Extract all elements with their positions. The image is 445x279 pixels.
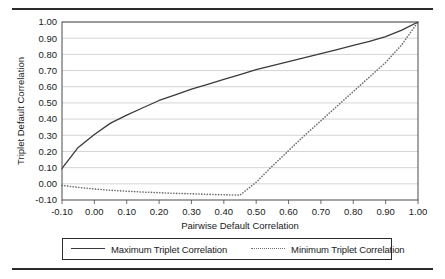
legend-label-minimum: Minimum Triplet Correlation [291, 244, 404, 255]
figure-bottom-rule [12, 268, 433, 270]
legend-swatch-dotted-icon [251, 244, 285, 254]
y-tick-label: 1.00 [39, 16, 58, 27]
legend-entry-minimum: Minimum Triplet Correlation [251, 239, 404, 259]
x-tick-label: 0.00 [85, 206, 104, 217]
figure-container: -0.100.000.100.200.300.400.500.600.700.8… [0, 0, 445, 279]
x-tick-label: 0.30 [182, 206, 201, 217]
y-axis-title: Triplet Default Correlation [15, 57, 26, 165]
x-tick-label: 1.00 [409, 206, 428, 217]
x-tick-label: 0.50 [247, 206, 266, 217]
y-tick-label: 0.40 [39, 113, 58, 124]
legend-label-maximum: Maximum Triplet Correlation [111, 244, 227, 255]
x-tick-label: 0.80 [344, 206, 363, 217]
figure-top-rule [12, 8, 433, 10]
chart-legend: Maximum Triplet Correlation Minimum Trip… [0, 238, 445, 262]
legend-box: Maximum Triplet Correlation Minimum Trip… [62, 238, 392, 260]
x-tick-label: 0.10 [117, 206, 136, 217]
y-tick-label: -0.10 [35, 194, 57, 205]
x-tick-label: 0.90 [376, 206, 395, 217]
x-tick-label: 0.60 [279, 206, 298, 217]
chart-plot-area: -0.100.000.100.200.300.400.500.600.700.8… [0, 14, 445, 236]
y-tick-label: 0.10 [39, 162, 58, 173]
y-tick-label: 0.20 [39, 146, 58, 157]
x-tick-label: 0.40 [215, 206, 234, 217]
y-tick-label: 0.30 [39, 130, 58, 141]
x-tick-label: 0.20 [150, 206, 169, 217]
line-chart: -0.100.000.100.200.300.400.500.600.700.8… [0, 14, 445, 236]
y-tick-label: 0.70 [39, 65, 58, 76]
y-tick-label: 0.00 [39, 178, 58, 189]
legend-entry-maximum: Maximum Triplet Correlation [71, 239, 227, 259]
x-tick-label: -0.10 [51, 206, 73, 217]
y-tick-label: 0.80 [39, 49, 58, 60]
y-tick-label: 0.90 [39, 33, 58, 44]
y-tick-label: 0.60 [39, 81, 58, 92]
plot-background [62, 22, 418, 200]
x-axis-title: Pairwise Default Correlation [181, 220, 299, 231]
y-tick-label: 0.50 [39, 97, 58, 108]
legend-swatch-solid-icon [71, 244, 105, 254]
x-tick-label: 0.70 [312, 206, 331, 217]
